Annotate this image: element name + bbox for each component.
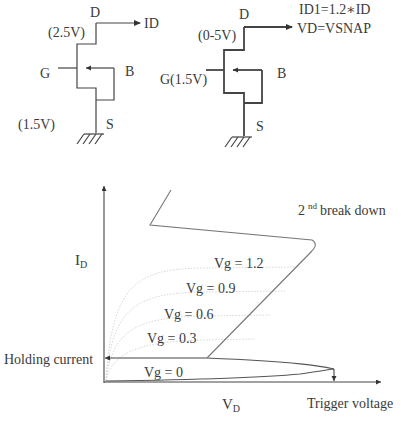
right-source-label: S [256,119,264,134]
vg-0-3-label: Vg = 0.3 [147,331,197,346]
right-body-label: B [277,66,286,81]
vg0-curve [106,369,334,381]
right-equation-1: ID1=1.2∗ID [299,2,370,17]
left-drain-label: D [90,5,100,20]
trigger-voltage-label: Trigger voltage [307,396,393,411]
left-body-label: B [125,64,134,79]
y-axis-label: ID [75,252,87,270]
body-wire [244,70,262,103]
drain-wire [224,27,244,136]
vg-0-6-label: Vg = 0.6 [164,307,214,322]
holding-current-label: Holding current [4,352,93,367]
diagram: D (2.5V) ID G B (1.5V) S D (0-5V) ID1=1.… [0,0,401,423]
x-axis-label: VD [222,396,240,414]
snapback-line [207,358,334,369]
right-equation-2: VD=VSNAP [297,21,371,36]
vg-0-label: Vg = 0 [144,365,183,380]
left-gate-label: G [40,66,50,81]
right-drain-label: D [239,7,249,22]
right-gate-label: G(1.5V) [160,72,207,88]
left-source-label: S [106,117,114,132]
ground-icon [77,134,102,144]
left-drain-voltage: (2.5V) [48,25,85,41]
body-wire [96,68,114,100]
circuit-left: D (2.5V) ID G B (1.5V) S [18,5,159,144]
iv-chart: ID VD 2ndbreak down Holding current Trig… [4,186,393,414]
vg-1-2-label: Vg = 1.2 [214,256,264,271]
right-drain-voltage: (0-5V) [198,28,236,44]
vg-0-9-label: Vg = 0.9 [186,281,236,296]
vg-curve-06 [106,315,270,381]
circuit-right: D (0-5V) ID1=1.2∗ID VD=VSNAP G(1.5V) B S [160,2,371,147]
left-output-label: ID [144,16,159,31]
ground-icon [225,137,250,147]
second-breakdown-label: 2ndbreak down [298,201,386,218]
left-gate-voltage: (1.5V) [18,117,55,133]
